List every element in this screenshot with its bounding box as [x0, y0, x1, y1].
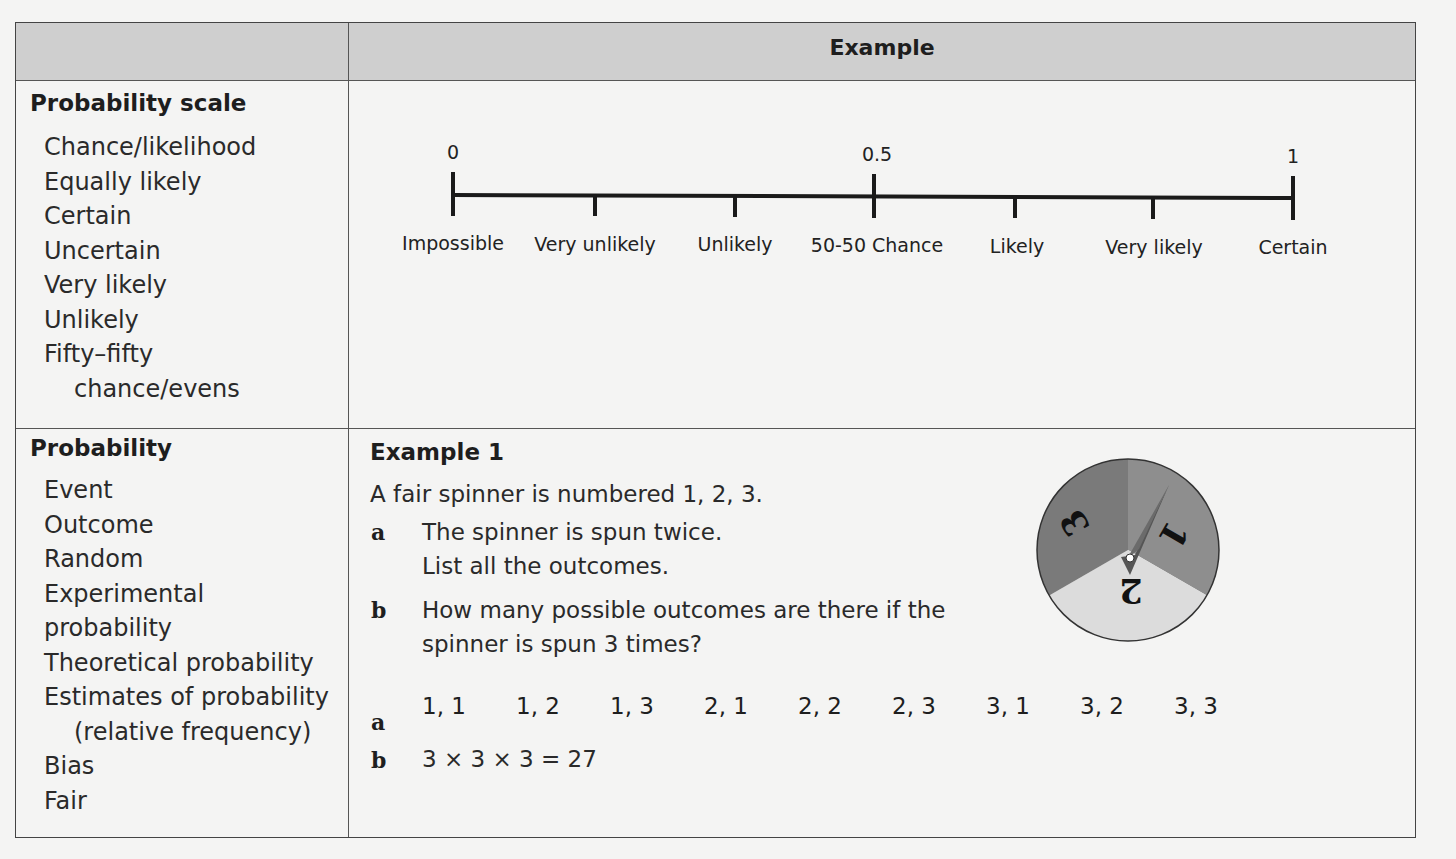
keyword: Estimates of probability: [44, 680, 329, 715]
scale-label: Very unlikely: [534, 233, 656, 255]
probability-scale-diagram: 0 0.5 1 Impossible Very unlikely Unlikel…: [349, 80, 1415, 420]
section-title: Probability: [30, 435, 172, 461]
question-line: How many possible outcomes are there if …: [422, 593, 945, 627]
sector-label: 2: [1119, 571, 1143, 611]
header-right-cell: Example: [349, 23, 1415, 80]
spinner-icon: 1 2 3: [1035, 457, 1221, 643]
scale-value-0: 0: [447, 141, 459, 163]
header-left-cell: [16, 23, 349, 80]
header-title: Example: [349, 35, 1415, 60]
keyword: Event: [44, 473, 329, 508]
table-header: Example: [16, 23, 1415, 81]
keyword: Very likely: [44, 268, 256, 303]
answer-text: 3 × 3 × 3 = 27: [422, 742, 597, 776]
question-line: The spinner is spun twice.: [422, 515, 722, 549]
example-title: Example 1: [370, 439, 504, 465]
outcome: 2, 1: [704, 693, 798, 719]
keyword: probability: [44, 611, 329, 646]
keyword: Chance/likelihood: [44, 130, 256, 165]
keyword: Certain: [44, 199, 256, 234]
question-label: a: [371, 519, 385, 545]
question-line: spinner is spun 3 times?: [422, 627, 945, 661]
keyword: Unlikely: [44, 303, 256, 338]
keyword: chance/evens: [44, 372, 256, 407]
keyword: Uncertain: [44, 234, 256, 269]
answer-label: b: [371, 747, 386, 773]
keyword: Theoretical probability: [44, 646, 329, 681]
outcome: 3, 1: [986, 693, 1080, 719]
vocabulary-table: Example Probability scale Chance/likelih…: [15, 22, 1416, 838]
scale-value-1: 1: [1287, 145, 1299, 167]
section-title: Probability scale: [30, 90, 246, 116]
scale-label: Certain: [1258, 236, 1327, 258]
question-line: List all the outcomes.: [422, 549, 722, 583]
keywords-cell: Probability scale Chance/likelihood Equa…: [16, 80, 349, 428]
scale-label: Very likely: [1105, 236, 1202, 258]
scale-value-half: 0.5: [862, 143, 892, 165]
answer-label: a: [371, 709, 385, 735]
keyword: Fair: [44, 784, 329, 819]
example-cell: Example 1 A fair spinner is numbered 1, …: [349, 429, 1415, 837]
keyword: Fifty–fifty: [44, 337, 256, 372]
outcome: 3, 3: [1174, 693, 1268, 719]
scale-label: Likely: [990, 235, 1044, 257]
question-text: How many possible outcomes are there if …: [422, 593, 945, 661]
keyword: Experimental: [44, 577, 329, 612]
scale-label: Unlikely: [697, 233, 772, 255]
outcome: 1, 1: [422, 693, 516, 719]
keyword-list: Event Outcome Random Experimental probab…: [44, 473, 329, 818]
keyword: Bias: [44, 749, 329, 784]
table-row-probability-scale: Probability scale Chance/likelihood Equa…: [16, 80, 1415, 429]
scale-label: Impossible: [402, 232, 504, 254]
keyword-list: Chance/likelihood Equally likely Certain…: [44, 130, 256, 406]
keyword: Outcome: [44, 508, 329, 543]
table-row-probability: Probability Event Outcome Random Experim…: [16, 429, 1415, 837]
outcome: 2, 3: [892, 693, 986, 719]
question-label: b: [371, 597, 386, 623]
scale-label: 50-50 Chance: [811, 234, 943, 256]
outcomes-list: 1, 1 1, 2 1, 3 2, 1 2, 2 2, 3 3, 1 3, 2 …: [422, 693, 1268, 719]
example-intro: A fair spinner is numbered 1, 2, 3.: [370, 477, 763, 511]
keyword: Equally likely: [44, 165, 256, 200]
example-cell: 0 0.5 1 Impossible Very unlikely Unlikel…: [349, 80, 1415, 428]
outcome: 1, 2: [516, 693, 610, 719]
keywords-cell: Probability Event Outcome Random Experim…: [16, 429, 349, 837]
outcome: 3, 2: [1080, 693, 1174, 719]
keyword: Random: [44, 542, 329, 577]
outcome: 2, 2: [798, 693, 892, 719]
outcome: 1, 3: [610, 693, 704, 719]
question-text: The spinner is spun twice. List all the …: [422, 515, 722, 583]
keyword: (relative frequency): [44, 715, 329, 750]
